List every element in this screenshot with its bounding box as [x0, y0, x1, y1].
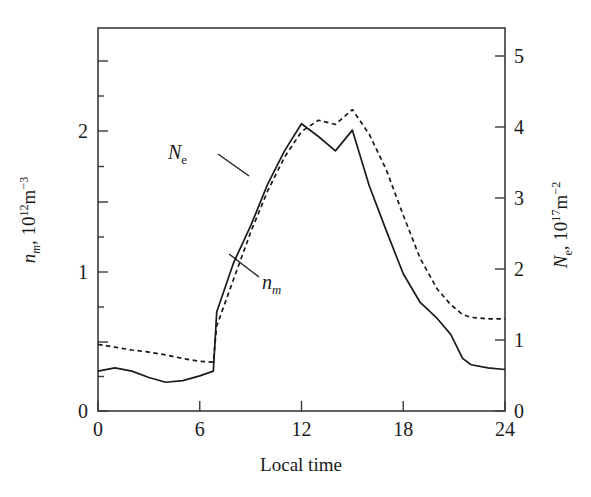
y-left-symbol: n [18, 254, 39, 264]
y-right-tick-label-1: 1 [514, 330, 524, 350]
x-axis-ticks [98, 401, 505, 411]
y-left-unit: m [18, 190, 39, 205]
y-left-subscript: m [29, 245, 43, 254]
x-tick-label-6: 6 [195, 419, 205, 439]
y-axis-right-title: Ne, 1017m−2 [550, 182, 574, 268]
nm-subscript: m [272, 283, 281, 297]
y-axis-left-title: nm, 1012m−3 [18, 177, 42, 264]
y-right-symbol: N [550, 256, 571, 269]
y-right-tick-label-2: 2 [514, 259, 524, 279]
x-tick-label-18: 18 [393, 419, 413, 439]
y-right-tick-label-5: 5 [514, 46, 524, 66]
y-left-unit-exponent: −3 [17, 177, 31, 190]
series-annotation-nm: nm [262, 272, 281, 297]
ne-symbol: N [168, 141, 181, 163]
series-line-ne [98, 110, 505, 363]
ne-subscript: e [181, 153, 187, 167]
y-right-unit: m [550, 195, 571, 210]
plot-frame [98, 28, 505, 411]
nm-symbol: n [262, 271, 272, 293]
y-left-separator: , 10 [18, 217, 39, 246]
x-tick-label-12: 12 [292, 419, 312, 439]
y-axis-left-ticks [98, 61, 108, 411]
y-right-tick-label-3: 3 [514, 188, 524, 208]
y-right-separator: , 10 [550, 222, 571, 251]
chart-figure: 0 1 2 0 1 2 3 4 5 0 6 12 18 24 Local tim… [0, 0, 591, 497]
y-left-tick-label-2: 2 [78, 121, 88, 141]
y-right-unit-exponent: −2 [549, 182, 563, 195]
x-tick-label-24: 24 [495, 419, 515, 439]
y-left-tick-label-0: 0 [78, 401, 88, 421]
y-right-subscript: e [561, 250, 575, 255]
x-tick-label-0: 0 [93, 419, 103, 439]
y-right-tick-label-0: 0 [514, 401, 524, 421]
leader-line-ne [218, 154, 249, 176]
series-line-nm [98, 124, 505, 383]
y-right-tick-label-4: 4 [514, 117, 524, 137]
y-left-tick-label-1: 1 [78, 262, 88, 282]
series-annotation-ne: Ne [168, 142, 187, 167]
y-right-exponent: 17 [549, 209, 563, 221]
x-axis-title: Local time [260, 455, 342, 474]
y-left-exponent: 12 [17, 204, 31, 216]
y-axis-right-ticks [495, 56, 505, 411]
